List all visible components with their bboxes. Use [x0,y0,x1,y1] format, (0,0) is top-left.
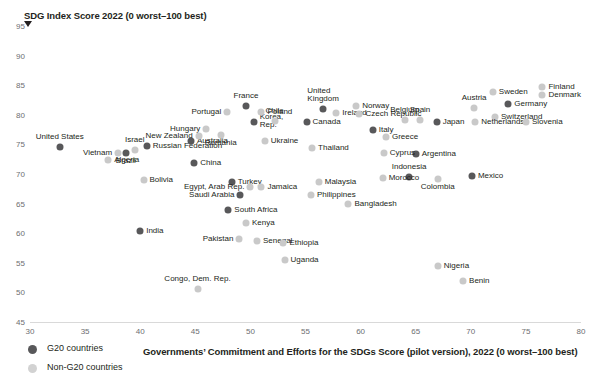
y-tick-label: 45 [16,318,25,327]
data-point-label: Chile [266,108,284,117]
y-tick-label: 65 [16,199,25,208]
data-point[interactable] [315,179,322,186]
data-point[interactable] [320,105,327,112]
plot-area: 4550556065707580859095303540455055606570… [30,26,581,322]
data-point[interactable] [345,200,352,207]
data-point-label: Bangladesh [354,199,396,208]
data-point[interactable] [369,127,376,134]
data-point-label: Philippines [317,191,356,200]
data-point-label: Ukraine [271,137,299,146]
data-point[interactable] [472,118,479,125]
data-point[interactable] [309,144,316,151]
data-point[interactable] [460,278,467,285]
data-point[interactable] [261,138,268,145]
data-point-label: India [146,227,163,236]
data-point[interactable] [468,172,475,179]
data-point[interactable] [505,100,512,107]
data-point-label: Jamaica [267,183,297,192]
data-point[interactable] [247,184,254,191]
data-point[interactable] [137,228,144,235]
y-tick-label: 85 [16,81,25,90]
data-point-label: Austria [462,94,487,103]
data-point-label: Thailand [318,144,349,153]
data-point[interactable] [236,236,243,243]
data-point-label: Congo, Dem. Rep. [164,275,230,284]
data-point-label: Canada [313,118,341,127]
x-tick-label: 35 [81,327,90,336]
y-tick-label: 70 [16,170,25,179]
y-tick-label: 90 [16,51,25,60]
data-point[interactable] [203,126,210,133]
data-point-label: Spain [410,106,430,115]
data-point-label: Slovenia [532,118,563,127]
data-point-label: Ethiopia [289,238,318,247]
data-point[interactable] [225,206,232,213]
data-point-label: Mexico [478,171,503,180]
data-point[interactable] [105,156,112,163]
data-point[interactable] [224,109,231,116]
data-point-label: Algeria [114,155,139,164]
data-point[interactable] [242,102,249,109]
data-point[interactable] [382,134,389,141]
data-point[interactable] [433,118,440,125]
data-point[interactable] [489,89,496,96]
data-point[interactable] [539,91,546,98]
data-point[interactable] [131,146,138,153]
data-point-label: Nigeria [444,262,469,271]
data-point[interactable] [194,285,201,292]
data-point-label: Romania [205,139,237,148]
data-point[interactable] [539,83,546,90]
data-point[interactable] [237,191,244,198]
data-point[interactable] [281,257,288,264]
x-tick-label: 30 [26,327,35,336]
data-point[interactable] [303,119,310,126]
y-axis-title: SDG Index Score 2022 (0 worst–100 best) [24,10,207,21]
data-point-label: Greece [392,133,418,142]
data-point[interactable] [280,239,287,246]
x-tick-label: 55 [301,327,310,336]
data-point[interactable] [380,149,387,156]
data-point[interactable] [434,263,441,270]
data-point[interactable] [308,192,315,199]
y-tick-label: 75 [16,140,25,149]
data-point[interactable] [242,219,249,226]
data-point[interactable] [522,119,529,126]
data-point[interactable] [258,109,265,116]
legend-label: G20 countries [47,343,103,353]
data-point[interactable] [56,143,63,150]
data-point-label: Japan [443,118,465,127]
data-point[interactable] [401,117,408,124]
data-point-label: Morocco [389,173,420,182]
data-point-label: United States [36,133,84,142]
data-point[interactable] [271,118,278,125]
data-point-label: Sweden [499,88,528,97]
data-point-label: Germany [514,99,547,108]
data-point[interactable] [140,176,147,183]
data-point-label: France [234,92,259,101]
data-point[interactable] [353,102,360,109]
data-point[interactable] [417,116,424,123]
data-point[interactable] [356,110,363,117]
y-tick-label: 50 [16,288,25,297]
data-point-label: China [200,159,221,168]
data-point-label: Colombia [421,183,455,192]
x-tick-label: 40 [136,327,145,336]
y-tick-label: 60 [16,229,25,238]
data-point[interactable] [254,237,261,244]
y-tick-label: 55 [16,258,25,267]
data-point-label: Saudi Arabia [189,190,234,199]
data-point-label: Uganda [291,256,319,265]
data-point[interactable] [195,132,202,139]
data-point[interactable] [379,174,386,181]
data-point[interactable] [250,118,257,125]
data-point-label: Malaysia [325,178,357,187]
data-point[interactable] [258,184,265,191]
data-point[interactable] [333,110,340,117]
data-point[interactable] [471,104,478,111]
data-point-label: Egypt, Arab Rep. [184,183,244,192]
data-point-label: New Zealand [145,131,192,140]
data-point-label: Indonesia [392,163,427,172]
data-point[interactable] [191,160,198,167]
data-point-label: United Kingdom [307,87,339,104]
x-tick-label: 70 [466,327,475,336]
